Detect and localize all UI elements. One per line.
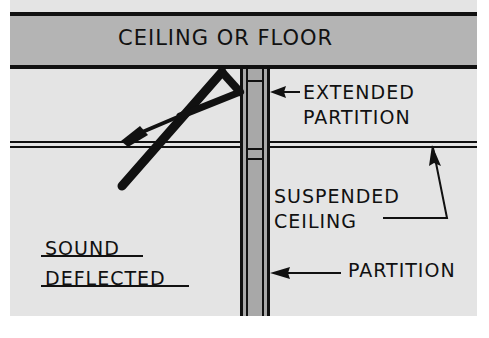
suspended-ceiling-label: SUSPENDED CEILING — [274, 184, 400, 234]
ceiling-or-floor-label: CEILING OR FLOOR — [118, 28, 333, 49]
sound-deflected-label: SOUND DEFLECTED — [45, 233, 166, 293]
extended-partition-label-line1: EXTENDED — [303, 80, 415, 105]
partition-wall — [240, 69, 270, 316]
extended-partition-leader — [270, 86, 300, 98]
suspended-ceiling-label-line2: CEILING — [274, 209, 400, 234]
extended-partition-label: EXTENDED PARTITION — [303, 80, 415, 130]
sound-deflected-label-line1: SOUND — [45, 233, 166, 263]
suspended-ceiling-arrowhead — [429, 145, 441, 166]
suspended-ceiling-label-line1: SUSPENDED — [274, 184, 400, 209]
sound-deflected-label-line2: DEFLECTED — [45, 263, 166, 293]
extended-partition-label-line2: PARTITION — [303, 105, 415, 130]
partition-label: PARTITION — [348, 261, 456, 280]
partition-leader — [270, 267, 341, 279]
